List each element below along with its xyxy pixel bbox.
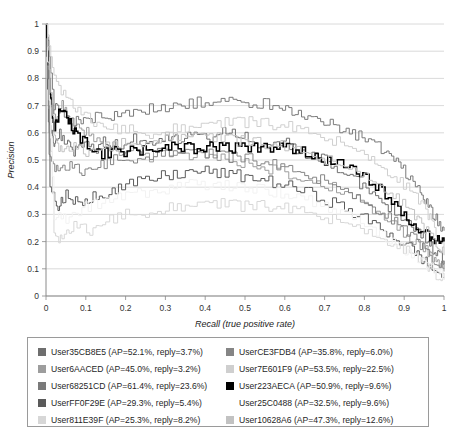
legend-swatch-User223AECA (226, 382, 234, 390)
legend-column-right: UserCE3FDB4 (AP=35.8%, reply=6.0%)User7E… (226, 344, 422, 429)
x-tick-label: 0.6 (279, 303, 291, 313)
x-axis-title: Recall (true positive rate) (195, 319, 295, 329)
x-tick-label: 0.3 (159, 303, 171, 313)
legend-item[interactable]: User223AECA (AP=50.9%, reply=9.6%) (226, 378, 422, 394)
y-tick-label: 0.6 (27, 128, 39, 138)
x-tick-label: 0.8 (358, 303, 370, 313)
legend-swatch-User10628A6 (226, 416, 234, 424)
legend-swatch-User25C0488 (226, 399, 234, 407)
x-tick-label: 0 (44, 303, 49, 313)
legend-swatch-User7E601F9 (226, 365, 234, 373)
x-tick-label: 1 (442, 303, 447, 313)
legend-item[interactable]: User7E601F9 (AP=53.5%, reply=22.5%) (226, 361, 422, 377)
x-tick-label: 0.2 (120, 303, 132, 313)
y-tick-label: 0.2 (27, 237, 39, 247)
legend-swatch-User35CB8E5 (38, 348, 46, 356)
y-tick-label: 0.8 (27, 73, 39, 83)
legend-label: User35CB8E5 (AP=52.1%, reply=3.7%) (51, 347, 203, 357)
x-tick-label: 0.7 (319, 303, 331, 313)
legend-column-left: User35CB8E5 (AP=52.1%, reply=3.7%)User6A… (38, 344, 234, 429)
legend-item[interactable]: UserFF0F29E (AP=29.3%, reply=5.4%) (38, 395, 234, 411)
series-line-User25C0488 (46, 24, 444, 279)
legend-swatch-UserFF0F29E (38, 399, 46, 407)
chart-legend: User35CB8E5 (AP=52.1%, reply=3.7%)User6A… (27, 337, 429, 427)
y-tick-label: 0.4 (27, 182, 39, 192)
legend-label: User68251CD (AP=61.4%, reply=23.6%) (51, 381, 207, 391)
legend-swatch-UserCE3FDB4 (226, 348, 234, 356)
legend-swatch-User68251CD (38, 382, 46, 390)
precision-recall-chart: 00.10.20.30.40.50.60.70.80.9100.10.20.30… (0, 0, 456, 330)
legend-item[interactable]: User68251CD (AP=61.4%, reply=23.6%) (38, 378, 234, 394)
legend-swatch-User6AACED (38, 365, 46, 373)
x-tick-label: 0.9 (398, 303, 410, 313)
legend-label: User10628A6 (AP=47.3%, reply=12.6%) (239, 415, 393, 425)
y-tick-label: 1 (34, 19, 39, 29)
y-tick-label: 0.9 (27, 46, 39, 56)
legend-item[interactable]: User35CB8E5 (AP=52.1%, reply=3.7%) (38, 344, 234, 360)
x-tick-label: 0.5 (239, 303, 251, 313)
legend-swatch-User811E39F (38, 416, 46, 424)
legend-item[interactable]: User811E39F (AP=25.3%, reply=8.2%) (38, 412, 234, 428)
legend-label: User6AACED (AP=45.0%, reply=3.2%) (51, 364, 201, 374)
y-tick-label: 0.7 (27, 101, 39, 111)
legend-label: User223AECA (AP=50.9%, reply=9.6%) (239, 381, 391, 391)
legend-item[interactable]: User6AACED (AP=45.0%, reply=3.2%) (38, 361, 234, 377)
legend-label: UserFF0F29E (AP=29.3%, reply=5.4%) (51, 398, 202, 408)
legend-item[interactable]: User25C0488 (AP=32.5%, reply=9.6%) (226, 395, 422, 411)
legend-label: UserCE3FDB4 (AP=35.8%, reply=6.0%) (239, 347, 393, 357)
chart-plot-area: 00.10.20.30.40.50.60.70.80.9100.10.20.30… (0, 0, 456, 330)
chart-figure: 00.10.20.30.40.50.60.70.80.9100.10.20.30… (0, 0, 456, 445)
y-tick-label: 0.3 (27, 209, 39, 219)
legend-item[interactable]: User10628A6 (AP=47.3%, reply=12.6%) (226, 412, 422, 428)
legend-label: User7E601F9 (AP=53.5%, reply=22.5%) (239, 364, 394, 374)
y-tick-label: 0.5 (27, 155, 39, 165)
x-tick-label: 0.1 (80, 303, 92, 313)
y-tick-label: 0 (34, 291, 39, 301)
x-tick-label: 0.4 (199, 303, 211, 313)
legend-item[interactable]: UserCE3FDB4 (AP=35.8%, reply=6.0%) (226, 344, 422, 360)
y-tick-label: 0.1 (27, 264, 39, 274)
legend-label: User25C0488 (AP=32.5%, reply=9.6%) (239, 398, 389, 408)
legend-label: User811E39F (AP=25.3%, reply=8.2%) (51, 415, 200, 425)
y-axis-title: Precision (6, 141, 16, 178)
